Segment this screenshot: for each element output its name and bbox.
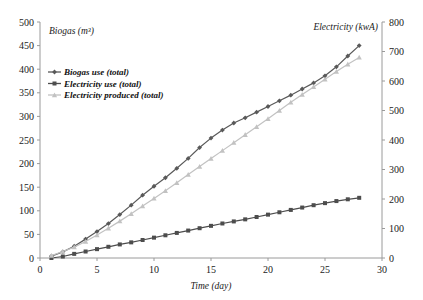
data-point-diamond bbox=[288, 93, 293, 98]
left-axis-tick-label: 150 bbox=[19, 182, 34, 193]
data-point-square bbox=[84, 250, 88, 254]
data-point-square bbox=[312, 203, 316, 207]
left-axis-tick-label: 450 bbox=[19, 40, 34, 51]
data-point-diamond bbox=[277, 98, 282, 103]
data-point-square bbox=[198, 226, 202, 230]
data-point-square bbox=[346, 197, 350, 201]
data-point-square bbox=[129, 240, 133, 244]
right-axis-tick-label: 0 bbox=[389, 253, 394, 264]
left-axis-tick-label: 50 bbox=[24, 229, 34, 240]
data-point-diamond bbox=[266, 104, 271, 109]
data-point-square bbox=[289, 208, 293, 212]
data-point-diamond bbox=[254, 110, 259, 115]
legend-marker-0 bbox=[52, 70, 57, 75]
data-point-square bbox=[334, 199, 338, 203]
left-axis-tick-label: 250 bbox=[19, 135, 34, 146]
legend-label-1[interactable]: Electricity use (total) bbox=[63, 79, 141, 89]
left-axis-tick-label: 400 bbox=[19, 64, 34, 75]
left-axis-tick-label: 300 bbox=[19, 111, 34, 122]
right-axis-tick-label: 200 bbox=[389, 194, 404, 205]
right-axis-tick-label: 300 bbox=[389, 164, 404, 175]
data-point-square bbox=[209, 224, 213, 228]
data-point-square bbox=[255, 215, 259, 219]
data-point-square bbox=[118, 242, 122, 246]
chart-legend: Biogas use (total)Electricity use (total… bbox=[48, 67, 163, 100]
left-axis-title: Biogas (m³) bbox=[49, 26, 94, 37]
left-axis-tick-label: 500 bbox=[19, 17, 34, 28]
data-point-square bbox=[61, 255, 65, 259]
data-point-square bbox=[243, 217, 247, 221]
line-chart: 0501001502002503003504004505000100200300… bbox=[0, 0, 423, 300]
x-axis-tick-label: 15 bbox=[206, 264, 216, 275]
data-point-square bbox=[220, 221, 224, 225]
data-point-square bbox=[357, 196, 361, 200]
right-axis-tick-label: 100 bbox=[389, 223, 404, 234]
x-axis-title: Time (day) bbox=[191, 281, 232, 292]
x-axis-tick-label: 10 bbox=[149, 264, 159, 275]
data-point-triangle bbox=[345, 62, 350, 67]
right-axis-tick-label: 800 bbox=[389, 17, 404, 28]
right-axis-tick-label: 700 bbox=[389, 46, 404, 57]
legend-label-2[interactable]: Electricity produced (total) bbox=[63, 90, 163, 100]
data-point-square bbox=[163, 233, 167, 237]
data-point-triangle bbox=[357, 55, 362, 60]
data-point-square bbox=[323, 201, 327, 205]
right-axis-tick-label: 500 bbox=[389, 105, 404, 116]
data-point-diamond bbox=[243, 115, 248, 120]
x-axis-tick-label: 5 bbox=[95, 264, 100, 275]
x-axis-tick-label: 0 bbox=[38, 264, 43, 275]
left-axis-tick-label: 350 bbox=[19, 87, 34, 98]
data-point-square bbox=[175, 231, 179, 235]
legend-label-0[interactable]: Biogas use (total) bbox=[63, 67, 129, 77]
data-point-square bbox=[95, 247, 99, 251]
data-point-square bbox=[141, 238, 145, 242]
data-point-square bbox=[72, 252, 76, 256]
data-point-square bbox=[152, 236, 156, 240]
x-axis-tick-label: 30 bbox=[377, 264, 387, 275]
x-axis-tick-label: 25 bbox=[320, 264, 330, 275]
data-point-square bbox=[232, 219, 236, 223]
legend-marker-1 bbox=[53, 82, 57, 86]
left-axis-tick-label: 0 bbox=[29, 253, 34, 264]
data-point-square bbox=[186, 229, 190, 233]
data-point-triangle bbox=[106, 226, 111, 231]
data-point-square bbox=[106, 245, 110, 249]
right-axis-title: Electricity (kwA) bbox=[312, 22, 378, 33]
right-axis-tick-label: 400 bbox=[389, 135, 404, 146]
data-point-square bbox=[266, 213, 270, 217]
left-axis-tick-label: 200 bbox=[19, 158, 34, 169]
chart-container: 0501001502002503003504004505000100200300… bbox=[0, 0, 423, 300]
data-point-square bbox=[300, 206, 304, 210]
data-point-diamond bbox=[300, 87, 305, 92]
right-axis-tick-label: 600 bbox=[389, 76, 404, 87]
data-point-square bbox=[277, 210, 281, 214]
series-1 bbox=[49, 196, 361, 260]
x-axis-tick-label: 20 bbox=[263, 264, 273, 275]
left-axis-tick-label: 100 bbox=[19, 205, 34, 216]
